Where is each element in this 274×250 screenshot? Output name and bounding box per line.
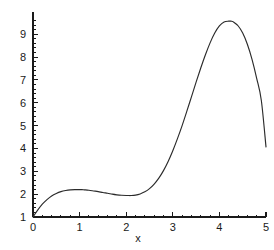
y-tick-label-7: 7 [20, 74, 26, 86]
y-tick-label-4: 4 [20, 142, 26, 154]
y-tick-label-3: 3 [20, 165, 26, 177]
x-tick-label-4: 4 [216, 221, 222, 233]
x-tick-label-1: 1 [77, 221, 83, 233]
x-tick-label-5: 5 [263, 221, 269, 233]
y-tick-label-8: 8 [20, 51, 26, 63]
chart-container: 012345 123456789 x [0, 0, 274, 250]
y-tick-label-6: 6 [20, 97, 26, 109]
y-tick-label-5: 5 [20, 120, 26, 132]
y-axis-tick-labels: 123456789 [20, 28, 26, 223]
y-tick-label-9: 9 [20, 28, 26, 40]
x-axis-tick-labels: 012345 [30, 221, 269, 233]
x-axis-title: x [135, 232, 141, 244]
line-chart: 012345 123456789 x [0, 0, 274, 250]
x-axis-major-ticks [33, 212, 266, 217]
y-tick-label-2: 2 [20, 188, 26, 200]
y-tick-label-1: 1 [20, 211, 26, 223]
x-tick-label-3: 3 [170, 221, 176, 233]
x-tick-label-2: 2 [123, 221, 129, 233]
data-curve-line [33, 21, 266, 217]
x-tick-label-0: 0 [30, 221, 36, 233]
